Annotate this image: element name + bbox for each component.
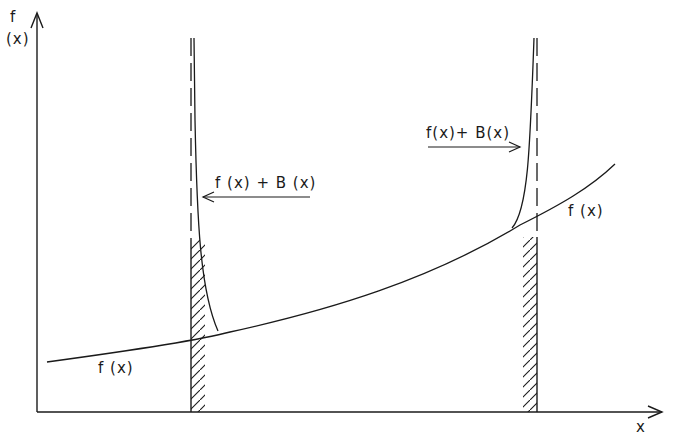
y-axis-label-x: (x) — [6, 30, 30, 48]
f-plus-b-right-branch — [512, 38, 534, 228]
left-arrow-label: f (x) + B (x) — [215, 174, 316, 192]
f-x-label-right: f (x) — [568, 202, 604, 220]
x-axis-label: x — [636, 418, 646, 436]
right-arrow-label: f(x)+ B(x) — [426, 124, 510, 142]
y-axis — [31, 13, 43, 412]
right-hatched-region — [523, 237, 537, 412]
x-axis — [37, 406, 662, 418]
right-annotation-arrow — [428, 142, 520, 152]
y-axis-label-f: f — [10, 8, 16, 26]
left-annotation-arrow — [203, 192, 310, 202]
f-x-label-left: f (x) — [98, 359, 134, 377]
